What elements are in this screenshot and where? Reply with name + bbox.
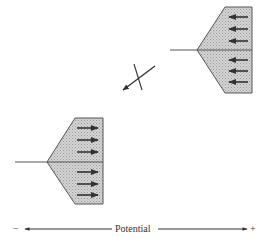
upper-electrode-shape <box>170 7 252 93</box>
axis-title: Potential <box>114 222 152 236</box>
axis-minus-label: − <box>13 222 19 236</box>
lower-electrode-shape <box>15 118 103 204</box>
diagram-canvas: − Potential + <box>0 0 271 242</box>
diagram-svg <box>0 0 271 242</box>
crossed-arrow-icon <box>123 64 155 90</box>
lower-stippled-region <box>47 118 103 204</box>
axis-plus-label: + <box>250 222 256 236</box>
